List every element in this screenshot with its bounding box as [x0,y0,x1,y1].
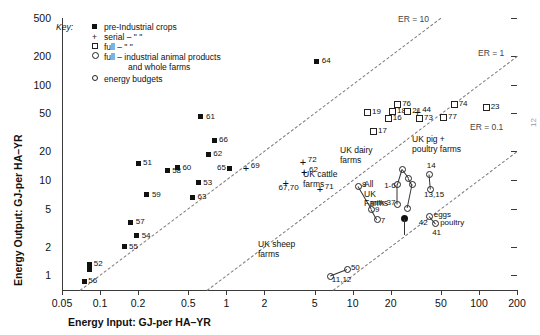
x-tick [353,290,354,295]
data-point-label: 23 [491,103,500,112]
er-reference-label: ER = 10 [398,14,429,24]
x-tick-label: 10 [333,298,373,308]
open-square-marker [404,108,411,115]
x-tick [188,290,189,295]
x-tick [264,290,265,295]
y-tick [511,151,517,152]
open-circle-small-icon [92,74,104,85]
filled-square-marker [144,192,149,197]
y-tick [511,180,517,181]
open-square-marker [416,115,423,122]
filled-square-icon [92,22,104,33]
y-tick-label: 10 [0,175,51,185]
data-point-label: 59 [152,191,161,200]
filled-square-marker [82,279,87,284]
plus-marker: + [243,163,249,173]
y-tick [511,275,517,276]
filled-square-marker [314,59,319,64]
data-point-label: 57 [136,218,145,227]
legend-entry-5: energy budgets [92,74,163,85]
data-point-label: 66 [219,136,228,145]
x-tick-label: 5 [295,298,335,308]
x-tick [315,290,316,295]
data-point-label: 72 [308,156,317,165]
legend-label: energy budgets [104,74,163,84]
figure-root: Energy Output: GJ-per HA–YR Energy Input… [0,0,540,335]
data-point-label: 19 [372,108,381,117]
open-square-marker [483,104,490,111]
x-tick [391,290,392,295]
legend-entry-3: full – industrial animal products [92,52,221,63]
open-square-marker [364,109,371,116]
x-tick-label: 1 [206,298,246,308]
data-point-label: 50 [351,264,360,273]
x-tick [479,290,480,295]
group-annotation: UK pig + poultry farms [412,135,461,154]
x-tick [100,290,101,295]
data-point-label: 67,70 [279,184,299,193]
page-mark: 12 [529,118,538,127]
filled-square-marker [87,267,92,272]
y-tick [511,85,517,86]
open-circle-icon [92,52,104,63]
filled-square-marker [134,233,139,238]
open-square-icon [92,42,104,53]
y-tick [511,247,517,248]
er-reference-label: ER = 1 [478,48,504,58]
data-point-label: poultry [440,219,464,228]
data-point-label: 63 [198,193,207,202]
x-tick-label: 200 [497,298,537,308]
data-point-label: 62 [213,150,222,159]
legend-label: full – " " [104,42,133,52]
legend-label: serial – " " [104,32,142,42]
legend-entry-1: +serial – " " [92,32,142,43]
y-tick-label: 2 [0,242,51,252]
plus-icon: + [92,32,104,43]
data-point-label: 14 [427,162,436,171]
data-point-label: 54 [142,232,151,241]
data-point-label: 61 [206,113,215,122]
data-point-label: 53 [203,179,212,188]
filled-square-marker [165,168,170,173]
x-tick-label: 100 [459,298,499,308]
open-square-marker [385,115,392,122]
data-point-label: 42 [419,219,428,228]
data-point-label: 13,15 [424,191,444,200]
filled-square-marker [196,180,201,185]
data-point-label: 73 [424,114,433,123]
legend-entry-2: full – " " [92,42,133,53]
group-annotation: UK dairy farms [340,146,373,165]
group-annotation: UK cattle farms [303,170,338,189]
y-tick [511,56,517,57]
data-point-label: 52 [94,260,103,269]
x-tick [226,290,227,295]
filled-square-marker [212,138,217,143]
filled-square-marker [122,244,127,249]
y-tick-label: 1 [0,270,51,280]
data-point-label: 65 [217,164,226,173]
open-square-marker [370,128,377,135]
x-tick [138,290,139,295]
filled-square-marker [206,152,211,157]
y-tick-label: 5 [0,204,51,214]
legend-title: Key: [56,22,73,33]
y-tick-label: 200 [0,51,51,61]
y-tick [511,18,517,19]
filled-square-marker [128,220,133,225]
er-reference-label: ER = 0.1 [470,122,503,132]
er-reference-line [206,56,517,291]
filled-square-marker [175,165,180,170]
open-square-marker [451,101,458,108]
y-tick [511,209,517,210]
data-point-label: 60 [182,164,191,173]
data-point-label: 7 [381,217,385,226]
data-point-label: 55 [129,243,138,252]
data-point-label: 51 [143,159,152,168]
group-annotation: All UK Farms [364,180,388,209]
y-tick [511,113,517,114]
all-uk-farms-stem [404,219,405,235]
data-point-label: 69 [251,162,260,171]
x-tick-label: 50 [421,298,461,308]
x-tick-label: 0.5 [168,298,208,308]
x-tick-label: 0.2 [118,298,158,308]
